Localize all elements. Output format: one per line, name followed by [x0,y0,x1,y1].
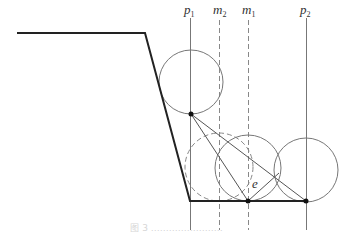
figure-caption: 图 3 …………………… [0,221,353,234]
profile-path [17,33,306,201]
point-p2 [304,199,309,204]
label-m1: m1 [242,2,255,19]
point-upper [189,112,194,117]
label-m2: m2 [213,2,226,19]
label-e: e [252,176,258,191]
point-m1 [246,199,251,204]
geometry-diagram: p1 m2 m1 p2 e [0,0,353,243]
label-p2: p2 [299,2,311,19]
label-p1: p1 [183,2,195,19]
